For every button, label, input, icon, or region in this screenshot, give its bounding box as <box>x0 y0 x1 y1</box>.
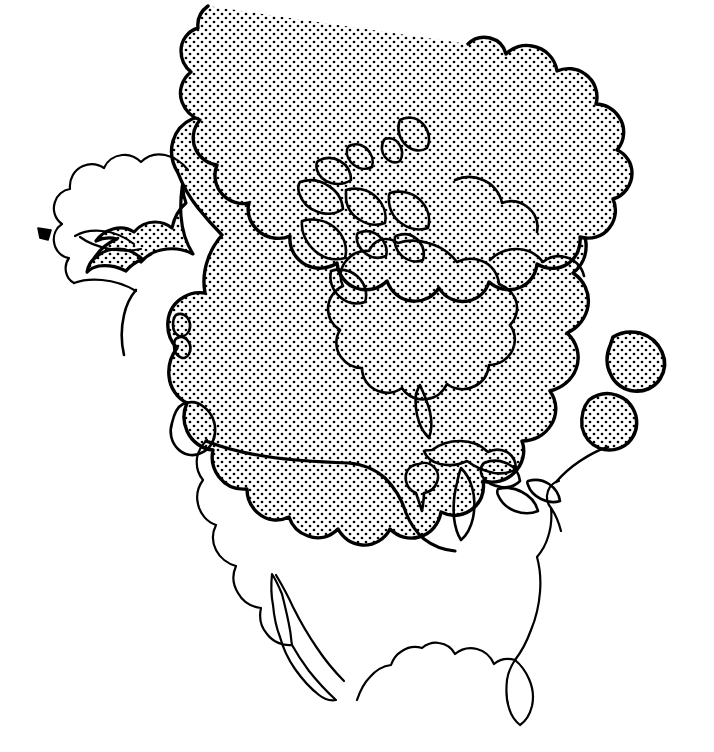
shaded-region-newfoundland <box>607 332 664 391</box>
shaded-region-nova-scotia <box>582 394 637 450</box>
north-america-map-svg <box>0 0 714 752</box>
map-figure: North America <box>0 0 714 752</box>
island-aleutian-tip <box>38 228 51 240</box>
